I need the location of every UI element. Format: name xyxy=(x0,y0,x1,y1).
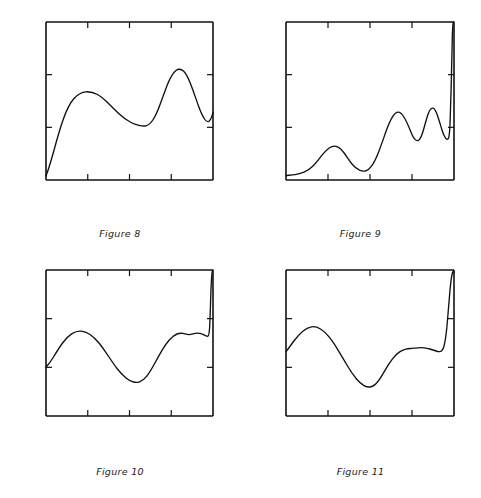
x-tick-label-10-1: 400 xyxy=(39,420,53,430)
x-tick-label-8-5: 200 xyxy=(206,184,220,194)
figure-panel-9: Figure 9 ABSORBANCE 1.5 1.0 .5 400 350 3… xyxy=(240,0,481,248)
y-axis-label-8: ABSORBANCE xyxy=(19,64,30,138)
x-tick-marks-10 xyxy=(88,270,172,416)
y-tick-marks-9 xyxy=(286,75,454,128)
y-axis-label-9: ABSORBANCE xyxy=(259,64,270,138)
y-tick-label-10-3: .5 xyxy=(36,363,42,372)
x-tick-marks-8 xyxy=(88,22,172,180)
chart-figure-11 xyxy=(240,248,481,498)
x-axis-label-length-10: LENGTH xyxy=(132,439,177,450)
chart-figure-10 xyxy=(0,248,240,498)
figure-grid: Figure 8 ABSORBANCE 1.5 1.0 .5 400 350 3… xyxy=(0,0,481,498)
x-tick-label-11-4: 250 xyxy=(405,420,419,430)
y-tick-label-9-1: 1.5 xyxy=(272,18,282,27)
x-tick-label-11-2: 350 xyxy=(321,420,335,430)
figure-panel-8: Figure 8 ABSORBANCE 1.5 1.0 .5 400 350 3… xyxy=(0,0,240,248)
y-tick-label-9-3: .5 xyxy=(276,123,282,132)
x-axis-unit-11: mμ xyxy=(425,440,440,450)
y-tick-marks-8 xyxy=(46,75,213,128)
x-tick-label-10-4: 250 xyxy=(164,420,178,430)
y-tick-label-8-3: .5 xyxy=(36,123,42,132)
x-tick-label-11-3: 300 xyxy=(363,420,377,430)
spectrum-curve-8 xyxy=(46,69,213,176)
y-tick-label-11-2: 1.0 xyxy=(272,315,282,324)
x-tick-label-8-3: 300 xyxy=(122,184,136,194)
x-tick-label-9-2: 350 xyxy=(321,184,335,194)
y-tick-label-11-3: .5 xyxy=(276,363,282,372)
figure-caption-11: Figure 11 xyxy=(240,466,481,477)
x-tick-label-9-3: 300 xyxy=(363,184,377,194)
x-axis-label-wave-10: WAVE xyxy=(69,439,100,450)
spectrum-curve-10 xyxy=(46,270,213,382)
x-axis-unit-9: mμ xyxy=(423,204,438,214)
spectrum-curve-11 xyxy=(286,271,454,387)
figure-caption-10: Figure 10 xyxy=(0,466,240,477)
plot-frame-10 xyxy=(46,270,213,416)
plot-frame-8 xyxy=(46,22,213,180)
spectrum-curve-9 xyxy=(286,22,454,176)
figure-caption-9: Figure 9 xyxy=(240,228,481,239)
figure-panel-11: Figure 11 ABSORBANCE 1.5 1.0 .5 400 350 … xyxy=(240,248,481,498)
figure-caption-8: Figure 8 xyxy=(0,228,240,239)
x-tick-label-9-5: 200 xyxy=(447,184,461,194)
x-tick-label-8-1: 400 xyxy=(39,184,53,194)
x-tick-label-9-1: 400 xyxy=(279,184,293,194)
y-tick-label-9-2: 1.0 xyxy=(272,71,282,80)
plot-frame-9 xyxy=(286,22,454,180)
y-tick-label-10-1: 1.5 xyxy=(32,266,42,275)
y-tick-label-10-2: 1.0 xyxy=(32,315,42,324)
x-tick-label-8-4: 250 xyxy=(164,184,178,194)
plot-frame-11 xyxy=(286,270,454,416)
x-tick-label-10-2: 350 xyxy=(81,420,95,430)
y-tick-marks-10 xyxy=(46,319,213,368)
x-axis-label-length-11: LENGTH xyxy=(375,439,420,450)
y-axis-label-10: ABSORBANCE xyxy=(19,306,30,380)
x-axis-label-wave-8: WAVE xyxy=(69,203,100,214)
x-tick-label-11-5: 200 xyxy=(447,420,461,430)
x-axis-label-length-8: LENGTH xyxy=(132,203,177,214)
y-tick-label-11-1: 1.5 xyxy=(272,266,282,275)
y-tick-marks-11 xyxy=(286,319,454,368)
x-tick-marks-11 xyxy=(328,270,412,416)
y-tick-label-8-1: 1.5 xyxy=(32,18,42,27)
x-tick-label-10-5: 200 xyxy=(206,420,220,430)
x-tick-label-9-4: 250 xyxy=(405,184,419,194)
y-tick-label-8-2: 1.0 xyxy=(32,71,42,80)
x-tick-marks-9 xyxy=(328,22,412,180)
x-axis-label-wave-11: WAVE xyxy=(311,439,342,450)
x-axis-label-wave-9: WAVE xyxy=(309,203,340,214)
x-tick-label-11-1: 400 xyxy=(279,420,293,430)
x-axis-unit-8: mμ xyxy=(182,204,197,214)
x-axis-unit-10: mμ xyxy=(182,440,197,450)
x-axis-label-length-9: LENGTH xyxy=(373,203,418,214)
y-axis-label-11: ABSORBANCE xyxy=(259,306,270,380)
x-tick-label-10-3: 300 xyxy=(122,420,136,430)
x-tick-label-8-2: 350 xyxy=(81,184,95,194)
figure-panel-10: Figure 10 ABSORBANCE 1.5 1.0 .5 400 350 … xyxy=(0,248,240,498)
